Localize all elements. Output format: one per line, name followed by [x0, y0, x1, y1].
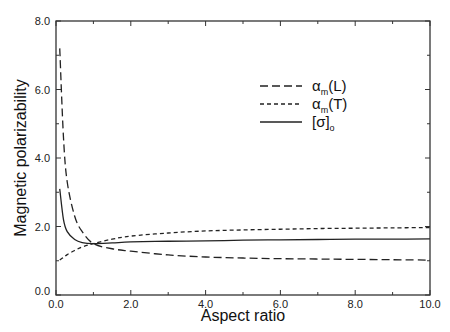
- y-tick-label: 4.0: [35, 152, 50, 164]
- x-axis-label: Aspect ratio: [201, 307, 286, 324]
- y-tick-label: 6.0: [35, 84, 50, 96]
- x-tick-label: 8.0: [348, 298, 363, 310]
- x-tick-label: 10.0: [419, 298, 440, 310]
- y-axis-label: Magnetic polarizability: [12, 79, 29, 236]
- y-tick-label: 2.0: [35, 221, 50, 233]
- series-line: [60, 48, 430, 260]
- x-tick-label: 2.0: [123, 298, 138, 310]
- legend-label: [σ]o: [312, 113, 335, 133]
- axis-ticks: [56, 21, 430, 295]
- legend-label: αm(T): [312, 95, 347, 115]
- y-tick-labels: 0.02.04.06.08.0: [35, 15, 50, 297]
- plot-curves: [60, 48, 430, 260]
- legend: αm(L)αm(T)[σ]o: [260, 77, 347, 133]
- plot-frame: [56, 21, 430, 295]
- line-chart: 0.02.04.06.08.010.0 0.02.04.06.08.0 Aspe…: [0, 0, 450, 332]
- series-line: [60, 228, 430, 261]
- legend-label: αm(L): [312, 77, 347, 97]
- y-tick-label: 8.0: [35, 15, 50, 27]
- series-line: [60, 189, 430, 244]
- x-tick-label: 0.0: [48, 298, 63, 310]
- y-tick-label: 0.0: [35, 285, 50, 297]
